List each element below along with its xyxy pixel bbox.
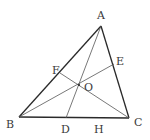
cevian-cf (60, 73, 129, 118)
cevian-be (19, 64, 114, 117)
label-o: O (84, 81, 93, 94)
side-ac (101, 26, 129, 118)
label-c: C (134, 116, 142, 129)
label-e: E (116, 55, 124, 68)
side-bc (19, 117, 129, 118)
label-f: F (52, 64, 60, 77)
label-a: A (96, 9, 106, 22)
label-h: H (94, 123, 104, 136)
cevian-ad (66, 26, 101, 118)
label-d: D (61, 123, 70, 136)
label-b: B (6, 118, 14, 131)
point-o-dot (78, 84, 80, 86)
triangle-diagram: A B C D E F O H (0, 0, 150, 140)
side-ab (19, 26, 101, 117)
